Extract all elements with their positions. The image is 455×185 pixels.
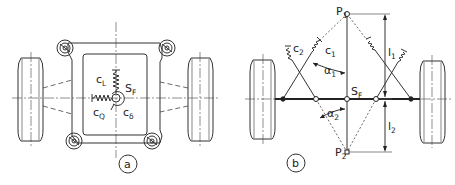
corner-mount-icon [144, 133, 160, 149]
label-l2: l2 [388, 120, 396, 135]
pivot-node [314, 97, 319, 102]
panel-tag-a: a [124, 158, 131, 171]
right-wheel-b [420, 55, 445, 148]
panel-tag-b: b [292, 157, 299, 170]
panel-a: cL SF cQ cδ a [12, 22, 220, 173]
label-cl: cL [96, 73, 107, 88]
label-alpha1: α1 [324, 64, 336, 79]
outer-frame [68, 43, 162, 143]
spring-c1-icon [312, 40, 320, 52]
corner-mount-icon [66, 133, 82, 149]
pivot-node [374, 97, 379, 102]
spring-c2-icon [286, 48, 292, 60]
label-sf-b: SF [351, 85, 362, 100]
suspension-diagram: cL SF cQ cδ a [0, 0, 455, 185]
right-wheel-a [188, 52, 213, 146]
label-l1: l1 [388, 46, 396, 61]
label-cdelta: cδ [123, 106, 134, 121]
corner-mount-icon [57, 40, 73, 56]
label-alpha2: α2 [327, 107, 339, 122]
pivot-node [281, 97, 285, 101]
spring-right-upper-icon [368, 41, 375, 50]
panel-b: P1 P2 c1 c2 α1 α2 l1 l2 SF b [245, 5, 452, 172]
spring-right-lower-icon [398, 52, 405, 62]
label-p1: P1 [336, 5, 348, 20]
label-c2: c2 [293, 42, 304, 57]
label-sf-a: SF [125, 82, 136, 97]
torsion-spring-cdelta-icon [112, 92, 124, 106]
left-wheel-a [18, 52, 43, 146]
label-cq: cQ [93, 106, 105, 121]
pivot-node [409, 97, 413, 101]
sf-node [345, 97, 350, 102]
label-c1: c1 [325, 44, 336, 59]
